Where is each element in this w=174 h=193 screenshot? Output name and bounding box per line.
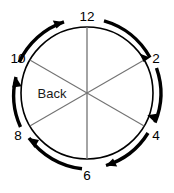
- clock-label-4: 4: [152, 128, 160, 143]
- clock-label-12: 12: [79, 9, 94, 24]
- diagram-canvas: 12 2 4 6 8 10 Back: [0, 0, 174, 193]
- clock-label-10: 10: [10, 51, 25, 66]
- clock-face-diagram: 12 2 4 6 8 10 Back: [0, 0, 174, 193]
- region-label-back: Back: [38, 86, 67, 101]
- arrow-8-to-10: [12, 77, 22, 127]
- clock-label-8: 8: [14, 128, 22, 143]
- clock-label-6: 6: [83, 168, 91, 183]
- clock-label-2: 2: [152, 51, 160, 66]
